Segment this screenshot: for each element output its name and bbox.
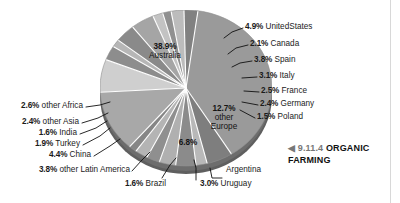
pct-spain: 3.8% <box>254 55 272 64</box>
name-china: China <box>70 150 91 159</box>
pct-china: 4.4% <box>49 150 67 159</box>
pct-other-latin-america: 3.8% <box>39 165 57 174</box>
pct-france: 2.5% <box>261 86 279 95</box>
slice-label-other-europe: 12.7% other Europe <box>196 104 252 132</box>
pct-other-africa: 2.6% <box>21 101 39 110</box>
pct-other-asia: 2.4% <box>22 117 40 126</box>
name-other-latin-america: other Latin America <box>59 165 130 174</box>
label-other-africa: 2.6% other Africa <box>21 102 83 111</box>
name-poland: Poland <box>278 112 304 121</box>
label-poland: 1.5% Poland <box>257 113 303 122</box>
page-rule-divider <box>390 0 391 203</box>
caption-title-2: FARMING <box>288 155 331 165</box>
pct-brazil: 1.6% <box>125 179 143 188</box>
label-spain: 3.8% Spain <box>254 56 296 65</box>
caption-title: ORGANIC <box>326 143 370 153</box>
name-other-africa: other Africa <box>42 101 83 110</box>
label-brazil: 1.6% Brazil <box>125 180 166 189</box>
pie-svg <box>100 10 272 178</box>
name-india: India <box>59 128 77 137</box>
label-canada: 2.1% Canada <box>250 40 299 49</box>
name-brazil: Brazil <box>146 179 166 188</box>
slice-label-argentina-pct: 6.8% <box>168 138 208 147</box>
pct-germany: 2.4% <box>260 99 278 108</box>
label-italy: 3.1% Italy <box>259 72 295 81</box>
label-other-asia: 2.4% other Asia <box>22 118 79 127</box>
pct-italy: 3.1% <box>259 71 277 80</box>
label-germany: 2.4% Germany <box>260 100 314 109</box>
label-india: 1.6% India <box>39 129 77 138</box>
pct-canada: 2.1% <box>250 39 268 48</box>
label-uruguay: 3.0% Uruguay <box>200 180 252 189</box>
slice-pct-other-europe: 12.7% <box>196 104 252 113</box>
name-canada: Canada <box>271 39 300 48</box>
slice-pct-australia: 38.9% <box>126 42 204 51</box>
pct-india: 1.6% <box>39 128 57 137</box>
slice-name-other-europe: other <box>196 113 252 122</box>
slice-name-other-europe-2: Europe <box>196 122 252 131</box>
name-argentina: Argentina <box>226 165 261 174</box>
name-uruguay: Uruguay <box>221 179 252 188</box>
slice-pct-argentina: 6.8% <box>179 138 198 147</box>
name-germany: Germany <box>281 99 315 108</box>
label-france: 2.5% France <box>261 87 307 96</box>
name-other-asia: other Asia <box>43 117 79 126</box>
pct-turkey: 1.9% <box>35 139 53 148</box>
slice-label-australia: 38.9% Australia <box>126 42 204 60</box>
label-china: 4.4% China <box>49 151 91 160</box>
pct-united-states: 4.9% <box>245 22 263 31</box>
label-turkey: 1.9% Turkey <box>35 140 80 149</box>
pct-poland: 1.5% <box>257 112 275 121</box>
pct-uruguay: 3.0% <box>200 179 218 188</box>
label-argentina: Argentina <box>226 166 261 175</box>
caption-number: 9.11.4 <box>298 143 323 153</box>
chart-figure: 38.9% Australia 12.7% other Europe 6.8% … <box>0 0 400 203</box>
name-spain: Spain <box>275 55 296 64</box>
slice-name-australia: Australia <box>126 51 204 60</box>
name-italy: Italy <box>280 71 295 80</box>
name-turkey: Turkey <box>55 139 80 148</box>
figure-caption: ◀ 9.11.4 ORGANIC FARMING <box>288 142 393 166</box>
pie-chart <box>100 10 272 178</box>
caption-arrow-icon: ◀ <box>288 143 295 153</box>
name-france: France <box>282 86 307 95</box>
name-united-states: UnitedStates <box>266 22 313 31</box>
label-united-states: 4.9% UnitedStates <box>245 23 312 32</box>
label-other-latin-america: 3.8% other Latin America <box>39 166 130 175</box>
